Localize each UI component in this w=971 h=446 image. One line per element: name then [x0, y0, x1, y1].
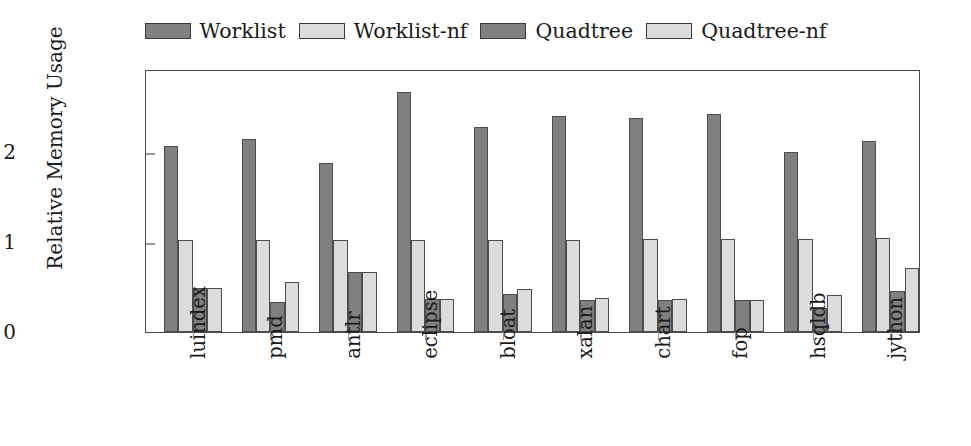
bar-group-chart — [629, 71, 687, 332]
x-axis-label-antlr: antlr — [344, 311, 364, 359]
legend-swatch-quadtree — [480, 23, 526, 39]
legend-label-worklist: Worklist — [200, 21, 286, 42]
legend-label-quadtree-nf: Quadtree-nf — [701, 21, 826, 42]
x-axis-label-xalan: xalan — [577, 306, 597, 359]
bar-group-antlr — [319, 71, 377, 332]
y-tick-label-0: 0 — [0, 322, 16, 342]
legend-swatch-worklist-nf — [299, 23, 345, 39]
bar-luindex-worklist — [164, 146, 178, 332]
x-axis-label-fop: fop — [732, 327, 752, 358]
plot-area — [145, 70, 920, 333]
bar-group-jython — [862, 71, 920, 332]
x-axis-label-hsqldb: hsqldb — [809, 292, 829, 358]
y-tick-1 — [146, 243, 155, 244]
x-axis-label-bloat: bloat — [499, 309, 519, 359]
legend-item-worklist-nf: Worklist-nf — [299, 21, 468, 42]
bar-fop-worklist-nf — [721, 239, 735, 332]
bar-group-pmd — [242, 71, 300, 332]
bar-chart-worklist — [629, 118, 643, 332]
y-tick-2 — [146, 153, 155, 154]
bar-jython-worklist — [862, 141, 876, 332]
legend-label-worklist-nf: Worklist-nf — [354, 21, 468, 42]
bar-fop-worklist — [707, 114, 721, 332]
bar-group-bloat — [474, 71, 532, 332]
bar-xalan-worklist — [552, 116, 566, 332]
bar-group-xalan — [552, 71, 610, 332]
x-axis-label-chart: chart — [654, 306, 674, 358]
x-axis-label-jython: jython — [887, 297, 907, 359]
x-axis-label-eclipse: eclipse — [422, 290, 442, 359]
bar-bloat-worklist — [474, 127, 488, 332]
legend-item-worklist: Worklist — [145, 21, 286, 42]
legend-swatch-quadtree-nf — [646, 23, 692, 39]
legend-item-quadtree-nf: Quadtree-nf — [646, 21, 826, 42]
bar-pmd-worklist — [242, 139, 256, 332]
legend-item-quadtree: Quadtree — [480, 21, 633, 42]
y-tick-label-1: 1 — [0, 232, 16, 252]
legend-label-quadtree: Quadtree — [535, 21, 633, 42]
bar-group-fop — [707, 71, 765, 332]
bar-antlr-worklist — [319, 163, 333, 332]
bar-eclipse-worklist — [397, 92, 411, 332]
y-axis-title: Relative Memory Usage — [43, 3, 71, 293]
legend-swatch-worklist — [145, 23, 191, 39]
y-tick-label-2: 2 — [0, 142, 16, 162]
x-axis-label-luindex: luindex — [189, 286, 209, 359]
chart-legend: Worklist Worklist-nf Quadtree Quadtree-n… — [0, 14, 971, 48]
bar-hsqldb-worklist — [784, 152, 798, 332]
x-axis-label-pmd: pmd — [267, 315, 287, 358]
